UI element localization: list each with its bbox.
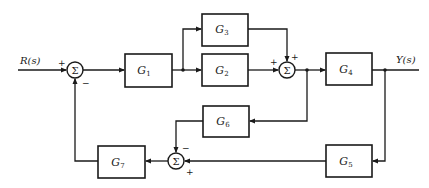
svg-text:Σ: Σ: [172, 156, 179, 167]
svg-text:Σ: Σ: [283, 65, 290, 76]
svg-text:Σ: Σ: [71, 65, 78, 76]
block-g7: G7: [98, 146, 145, 178]
input-label: R(s): [19, 55, 41, 66]
sign-plus: +: [186, 167, 194, 177]
block-g5: G5: [326, 145, 372, 177]
block-g6: G6: [203, 106, 249, 137]
summing-junction-3: Σ − +: [168, 143, 194, 177]
block-g3: G3: [202, 14, 248, 46]
sign-plus: +: [58, 58, 66, 68]
output-label: Y(s): [396, 54, 416, 65]
sign-plus: +: [270, 57, 278, 67]
block-g2: G2: [202, 54, 248, 86]
sign-minus: −: [82, 78, 90, 88]
block-diagram: R(s) Σ + − G1 G3 G2 Σ + + G4: [0, 0, 429, 188]
block-g4: G4: [326, 53, 372, 85]
sign-minus: −: [182, 143, 190, 153]
block-g1: G1: [125, 54, 172, 87]
sign-plus: +: [291, 52, 299, 62]
summing-junction-2: Σ + +: [270, 52, 299, 78]
summing-junction-1: Σ + −: [58, 58, 90, 88]
